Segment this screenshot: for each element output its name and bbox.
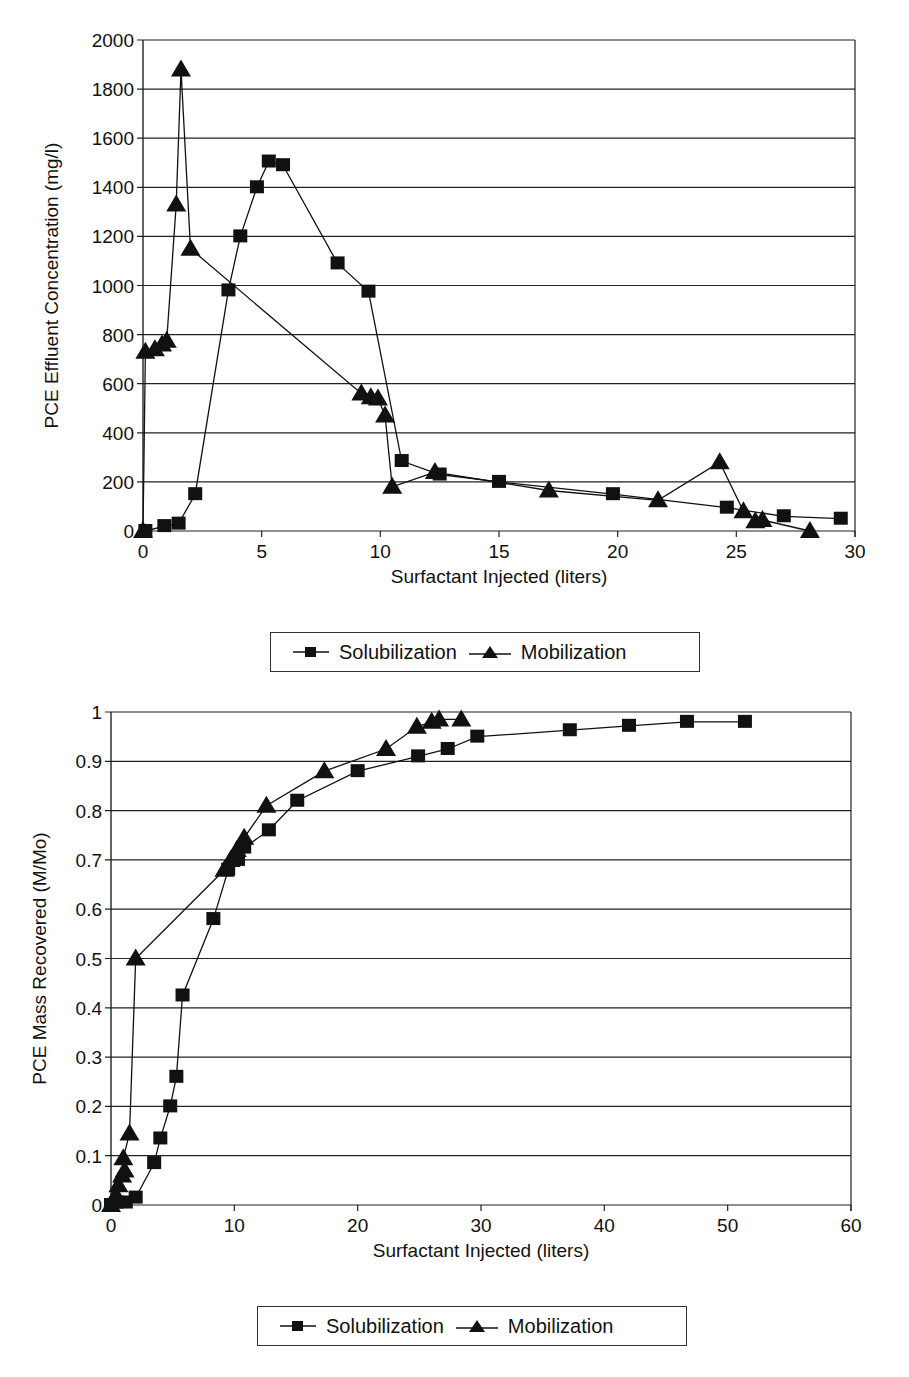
square-marker (470, 730, 484, 743)
series-line-solubilization (111, 722, 745, 1205)
legend-label: Solubilization (326, 1315, 444, 1338)
x-tick-label: 0 (106, 1215, 117, 1236)
square-marker (738, 715, 752, 728)
legend-mobilization: Mobilization (467, 641, 627, 664)
triangle-marker (113, 1148, 133, 1165)
y-tick-label: 0.2 (76, 1096, 102, 1117)
legend-label: Mobilization (521, 641, 627, 664)
legend-solubilization: Solubilization (291, 641, 463, 664)
square-marker (176, 988, 190, 1001)
triangle-marker (314, 761, 334, 778)
triangle-marker-icon (467, 644, 513, 660)
square-marker (411, 749, 425, 762)
y-tick-label: 0.7 (76, 850, 102, 871)
legend-label: Solubilization (339, 641, 457, 664)
triangle-marker (376, 739, 396, 756)
chart1-legend: Solubilization Mobilization (270, 632, 700, 672)
square-marker (129, 1191, 143, 1204)
square-marker-icon (278, 1319, 318, 1333)
y-tick-label: 0 (91, 1195, 102, 1216)
chart2-legend: Solubilization Mobilization (257, 1306, 687, 1346)
square-marker (290, 794, 304, 807)
x-tick-label: 10 (224, 1215, 245, 1236)
x-tick-label: 40 (594, 1215, 615, 1236)
y-tick-label: 0.6 (76, 899, 102, 920)
legend-label: Mobilization (508, 1315, 614, 1338)
square-marker (441, 742, 455, 755)
triangle-marker (234, 828, 254, 845)
y-axis-title: PCE Mass Recovered (M/Mo) (29, 832, 50, 1084)
y-tick-label: 1 (91, 702, 102, 723)
square-marker (622, 719, 636, 732)
y-tick-label: 0.8 (76, 801, 102, 822)
y-tick-label: 0.3 (76, 1047, 102, 1068)
x-tick-label: 20 (347, 1215, 368, 1236)
square-marker (153, 1131, 167, 1144)
legend-mobilization: Mobilization (454, 1315, 614, 1338)
square-marker-icon (291, 645, 331, 659)
square-marker (163, 1099, 177, 1112)
x-tick-label: 50 (717, 1215, 738, 1236)
x-tick-label: 30 (470, 1215, 491, 1236)
square-marker (206, 912, 220, 925)
square-marker (680, 715, 694, 728)
square-marker (169, 1070, 183, 1083)
square-marker (563, 723, 577, 736)
square-marker (147, 1156, 161, 1169)
square-marker (351, 764, 365, 777)
y-tick-label: 0.9 (76, 751, 102, 772)
triangle-marker (256, 796, 276, 813)
legend-solubilization: Solubilization (278, 1315, 450, 1338)
x-axis-title: Surfactant Injected (liters) (373, 1240, 589, 1261)
square-marker (262, 823, 276, 836)
y-tick-label: 0.4 (76, 998, 103, 1019)
triangle-marker (120, 1124, 140, 1141)
x-tick-label: 60 (840, 1215, 861, 1236)
y-tick-label: 0.5 (76, 949, 102, 970)
triangle-marker-icon (454, 1318, 500, 1334)
y-tick-label: 0.1 (76, 1146, 102, 1167)
